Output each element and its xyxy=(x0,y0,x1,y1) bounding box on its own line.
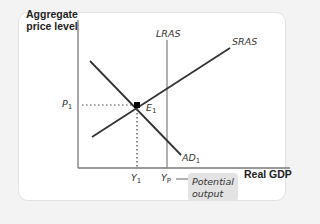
equilibrium-label: E1 xyxy=(146,102,156,115)
equilibrium-point xyxy=(134,102,140,108)
output-y1-label: Y1 xyxy=(131,172,141,185)
price-level-p1-label: P1 xyxy=(62,98,72,111)
potential-output-yp-label: YP xyxy=(161,172,171,185)
annotation-line-1: Potential xyxy=(192,176,238,188)
y-axis-label: Aggregate price level xyxy=(24,8,80,32)
ad-label: AD1 xyxy=(182,152,200,165)
potential-output-annotation: Potential output xyxy=(188,173,238,201)
sras-curve xyxy=(92,48,230,137)
lras-label: LRAS xyxy=(156,28,180,39)
annotation-line-2: output xyxy=(192,188,238,200)
x-axis-label: Real GDP xyxy=(244,168,292,180)
sras-label: SRAS xyxy=(232,36,257,47)
